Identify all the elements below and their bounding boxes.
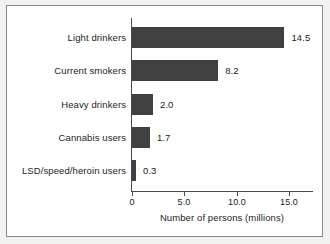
bar-current-smokers [132,60,218,81]
x-tick-mark-1 [184,192,185,196]
x-tick-label-3: 15.0 [280,197,298,207]
x-tick-label-1: 5.0 [178,197,191,207]
category-label-light-drinkers: Light drinkers [68,27,126,48]
bar-value-light-drinkers: 14.5 [291,27,310,48]
bar-row: Cannabis users 1.7 [7,127,322,148]
bar-row: Current smokers 8.2 [7,60,322,81]
bar-heavy-drinkers [132,94,153,115]
bar-row: Light drinkers 14.5 [7,27,322,48]
bar-light-drinkers [132,27,284,48]
x-tick-mark-0 [132,192,133,196]
bar-value-lsd-speed-heroin-users: 0.3 [143,160,157,181]
bar-row: LSD/speed/heroin users 0.3 [7,160,322,181]
bar-value-current-smokers: 8.2 [225,60,239,81]
x-tick-mark-2 [237,192,238,196]
plot-area: 0 5.0 10.0 15.0 Light drinkers 14.5 Curr… [7,6,322,236]
bar-cannabis-users [132,127,150,148]
x-tick-mark-3 [289,192,290,196]
x-axis-line [131,191,313,192]
x-tick-label-2: 10.0 [228,197,246,207]
x-axis-title: Number of persons (millions) [131,212,313,223]
bar-value-heavy-drinkers: 2.0 [160,94,174,115]
chart-figure-frame: 0 5.0 10.0 15.0 Light drinkers 14.5 Curr… [6,5,323,237]
x-tick-label-0: 0 [129,197,134,207]
category-label-current-smokers: Current smokers [54,60,126,81]
category-label-lsd-speed-heroin-users: LSD/speed/heroin users [22,160,126,181]
bar-lsd-speed-heroin-users [132,160,136,181]
category-label-heavy-drinkers: Heavy drinkers [61,94,126,115]
category-label-cannabis-users: Cannabis users [59,127,126,148]
bar-row: Heavy drinkers 2.0 [7,94,322,115]
bar-value-cannabis-users: 1.7 [157,127,171,148]
